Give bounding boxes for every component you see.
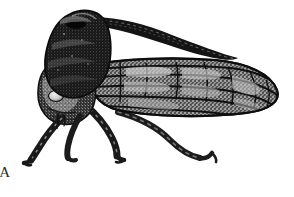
figure-label: A [0,164,294,180]
figure-panel: A [0,0,294,197]
figure-label-text: A [0,164,11,180]
